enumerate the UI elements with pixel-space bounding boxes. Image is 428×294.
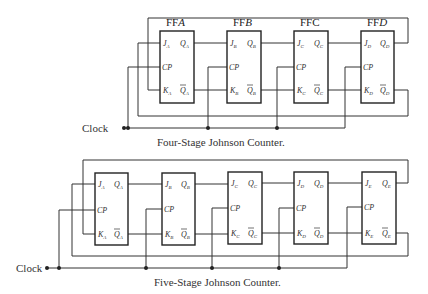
flip-flop-d: FFD JD QD CP KD QD: [361, 16, 394, 103]
junction-dot: [275, 126, 279, 130]
four-stage-johnson-counter: Clock FFA JA QA CP KA QA FFB JB QB CP KB…: [82, 16, 408, 148]
svg-text:CP: CP: [164, 205, 174, 214]
svg-text:CP: CP: [296, 63, 306, 72]
flip-flop-a: JA QA CP KA QA: [95, 173, 128, 245]
five-stage-johnson-counter: Clock JA QA CP KA QA JB QB CP KB QB JC Q…: [16, 160, 408, 288]
clock-terminal-dot: [45, 266, 49, 270]
svg-text:FFA: FFA: [166, 16, 185, 28]
clock-label: Clock: [16, 262, 43, 274]
clock-label: Clock: [82, 122, 109, 134]
svg-text:FFC: FFC: [300, 16, 320, 28]
junction-dot: [277, 266, 281, 270]
johnson-counter-diagrams: Clock FFA JA QA CP KA QA FFB JB QB CP KB…: [0, 0, 428, 294]
svg-text:CP: CP: [97, 206, 107, 215]
flip-flop-c: JC QC CP KC QC: [228, 172, 262, 244]
flip-flop-c: FFC JC QC CP KC QC: [294, 16, 328, 103]
flip-flop-a: FFA JA QA CP KA QA: [160, 16, 194, 103]
junction-dot: [57, 266, 61, 270]
flip-flop-b: FFB JB QB CP KB QB: [227, 16, 261, 103]
svg-text:CP: CP: [363, 63, 373, 72]
junction-dot: [206, 126, 210, 130]
junction-dot: [126, 126, 130, 130]
svg-text:CP: CP: [162, 63, 172, 72]
junction-dot: [144, 266, 148, 270]
svg-text:FFB: FFB: [233, 16, 252, 28]
clock-terminal-dot: [122, 126, 126, 130]
four-stage-caption: Four-Stage Johnson Counter.: [157, 136, 285, 148]
junction-dot: [210, 266, 214, 270]
svg-text:CP: CP: [229, 63, 239, 72]
five-stage-caption: Five-Stage Johnson Counter.: [154, 276, 281, 288]
svg-text:CP: CP: [364, 203, 374, 212]
svg-text:FFD: FFD: [367, 16, 387, 28]
svg-text:CP: CP: [230, 204, 240, 213]
flip-flop-d: JD QD CP KD QD: [294, 172, 328, 244]
flip-flop-b: JB QB CP KB QB: [162, 173, 195, 245]
flip-flop-e: JE QE CP KE QE: [362, 172, 396, 244]
svg-text:CP: CP: [296, 204, 306, 213]
